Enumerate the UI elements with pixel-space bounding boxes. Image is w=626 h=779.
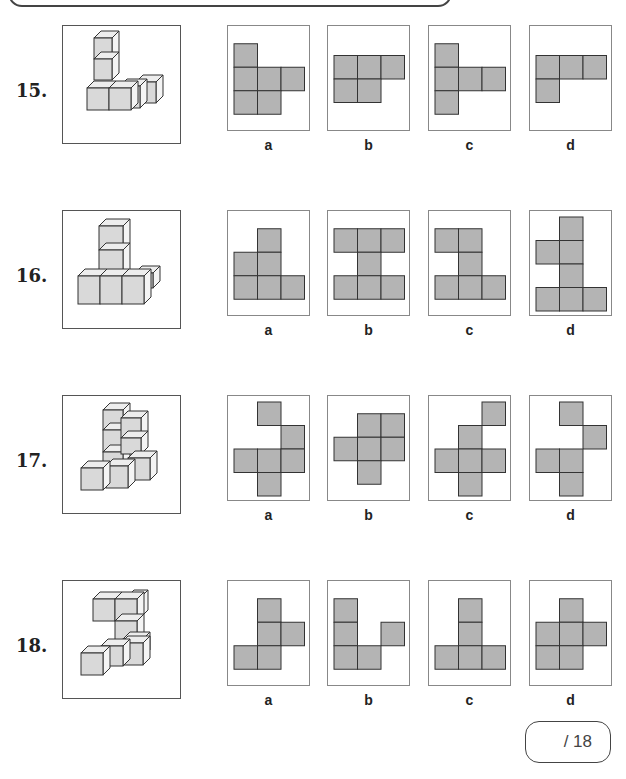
net-diagram	[530, 211, 613, 317]
header-banner	[8, 0, 452, 7]
question-number: 18.	[16, 635, 47, 656]
option-b-box[interactable]	[327, 580, 410, 686]
option-a-box[interactable]	[227, 395, 310, 501]
net-square	[358, 414, 382, 438]
cube-stack-illustration	[63, 581, 182, 700]
net-diagram	[328, 396, 411, 502]
net-square	[482, 67, 506, 91]
net-square	[334, 229, 358, 253]
cube-stack-illustration	[63, 211, 182, 330]
net-square	[234, 91, 258, 115]
net-square	[536, 241, 560, 265]
option-a-box[interactable]	[227, 25, 310, 131]
net-square	[583, 622, 607, 646]
option-b-label[interactable]: b	[327, 692, 410, 708]
net-square	[560, 622, 584, 646]
option-c-label[interactable]: c	[428, 137, 511, 153]
net-square	[258, 67, 282, 91]
option-b-box[interactable]	[327, 25, 410, 131]
option-b-label[interactable]: b	[327, 137, 410, 153]
net-square	[381, 56, 405, 80]
net-square	[258, 622, 282, 646]
net-square	[459, 252, 483, 276]
cube-stack-illustration	[63, 396, 182, 515]
net-square	[358, 461, 382, 485]
option-d-label[interactable]: d	[529, 137, 612, 153]
option-d-box[interactable]	[529, 25, 612, 131]
option-b-label[interactable]: b	[327, 507, 410, 523]
net-square	[258, 91, 282, 115]
net-square	[281, 276, 305, 300]
net-square	[583, 426, 607, 450]
net-diagram	[429, 26, 512, 132]
option-c-label[interactable]: c	[428, 322, 511, 338]
option-d-label[interactable]: d	[529, 322, 612, 338]
net-diagram	[530, 581, 613, 687]
net-square	[435, 276, 459, 300]
net-square	[381, 622, 405, 646]
option-a-box[interactable]	[227, 210, 310, 316]
net-square	[334, 599, 358, 623]
net-square	[258, 449, 282, 473]
option-c-label[interactable]: c	[428, 507, 511, 523]
net-square	[536, 622, 560, 646]
option-d-label[interactable]: d	[529, 692, 612, 708]
net-square	[459, 67, 483, 91]
net-square	[435, 449, 459, 473]
net-square	[560, 241, 584, 265]
net-square	[560, 646, 584, 670]
net-square	[334, 646, 358, 670]
option-d-box[interactable]	[529, 395, 612, 501]
option-c-box[interactable]	[428, 580, 511, 686]
net-square	[459, 599, 483, 623]
net-square	[281, 622, 305, 646]
net-square	[560, 449, 584, 473]
net-square	[281, 67, 305, 91]
option-b-box[interactable]	[327, 210, 410, 316]
option-a-label[interactable]: a	[227, 322, 310, 338]
net-square	[258, 229, 282, 253]
question-number: 15.	[16, 80, 47, 101]
option-a-label[interactable]: a	[227, 692, 310, 708]
net-square	[258, 473, 282, 497]
net-square	[234, 646, 258, 670]
net-square	[281, 426, 305, 450]
net-square	[358, 276, 382, 300]
net-square	[560, 402, 584, 426]
net-square	[482, 402, 506, 426]
net-square	[459, 426, 483, 450]
net-square	[234, 67, 258, 91]
net-square	[281, 449, 305, 473]
option-c-box[interactable]	[428, 210, 511, 316]
option-d-box[interactable]	[529, 210, 612, 316]
net-square	[358, 56, 382, 80]
option-b-box[interactable]	[327, 395, 410, 501]
net-square	[381, 276, 405, 300]
option-a-label[interactable]: a	[227, 507, 310, 523]
net-square	[482, 276, 506, 300]
option-b-label[interactable]: b	[327, 322, 410, 338]
option-c-label[interactable]: c	[428, 692, 511, 708]
net-square	[435, 229, 459, 253]
net-diagram	[530, 396, 613, 502]
option-c-box[interactable]	[428, 395, 511, 501]
net-square	[459, 473, 483, 497]
net-square	[536, 646, 560, 670]
net-square	[482, 449, 506, 473]
option-d-box[interactable]	[529, 580, 612, 686]
option-c-box[interactable]	[428, 25, 511, 131]
option-d-label[interactable]: d	[529, 507, 612, 523]
net-square	[234, 44, 258, 68]
net-square	[435, 44, 459, 68]
net-square	[583, 56, 607, 80]
net-square	[536, 288, 560, 312]
net-diagram	[228, 396, 311, 502]
net-square	[358, 79, 382, 103]
question-shape-box	[62, 580, 181, 699]
net-square	[258, 646, 282, 670]
option-a-box[interactable]	[227, 580, 310, 686]
net-square	[381, 229, 405, 253]
net-square	[258, 402, 282, 426]
option-a-label[interactable]: a	[227, 137, 310, 153]
net-diagram	[429, 581, 512, 687]
